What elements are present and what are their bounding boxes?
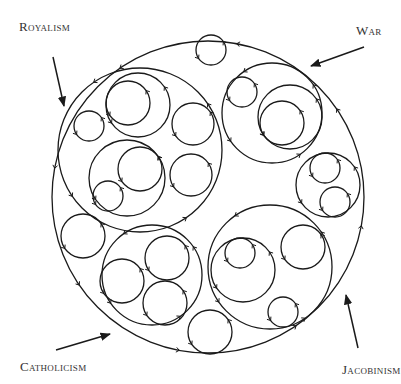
jacobinism-arrow-icon — [346, 295, 358, 348]
circle-war-small — [227, 77, 257, 107]
circle-jacobinism-inner — [225, 238, 255, 268]
circle-royalism-upper-loop — [106, 73, 170, 137]
circle-jacobinism-left — [211, 238, 275, 302]
label-royalism: Royalism — [19, 19, 70, 35]
circle-royalism-lower-right — [170, 154, 212, 196]
circle-jacobinism-bottom — [268, 297, 298, 327]
circle-catholicism-top-right — [145, 236, 189, 280]
circle-diagram — [0, 0, 401, 384]
circle-bottom — [188, 310, 232, 354]
circle-catholicism-bottom-right — [143, 281, 187, 325]
circle-catholicism-left — [100, 259, 144, 303]
war-arrow-icon — [311, 47, 364, 66]
circle-far-left — [61, 214, 105, 258]
circle-royalism-upper-inner — [106, 81, 150, 125]
label-jacobinism: Jacobinism — [342, 362, 401, 378]
royalism-arrow-icon — [53, 57, 64, 106]
circle-royalism-right — [172, 103, 214, 145]
circle-jacobinism-right — [281, 225, 325, 269]
circle-catholicism-container — [102, 225, 202, 325]
circle-right-lower — [320, 187, 350, 217]
circles-layer — [52, 35, 364, 354]
circle-right-container — [296, 153, 360, 217]
circle-royalism-container — [58, 68, 222, 232]
circle-war-inner — [260, 101, 304, 145]
circle-royalism-lower-inner — [118, 147, 162, 191]
label-war: War — [356, 23, 382, 39]
label-catholicism: Catholicism — [20, 359, 86, 375]
catholicism-arrow-icon — [56, 334, 110, 350]
circle-right-upper — [310, 153, 340, 183]
circle-royalism-left-small — [74, 111, 104, 141]
circle-royalism-lower-small — [93, 181, 123, 211]
circle-top-small — [196, 35, 226, 65]
